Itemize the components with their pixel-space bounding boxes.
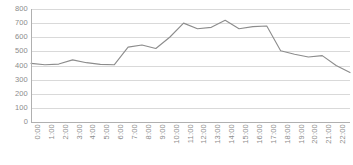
x-axis-tick-label: 21:00 xyxy=(325,124,333,144)
x-axis-tick-label: 3:00 xyxy=(76,124,84,139)
x-axis-tick-label: 15:00 xyxy=(242,124,250,144)
x-axis-line xyxy=(31,122,350,123)
y-axis-tick-label: 200 xyxy=(0,90,28,98)
x-axis-tick-label: 17:00 xyxy=(270,124,278,144)
y-axis-tick-label: 0 xyxy=(0,118,28,126)
x-axis-tick-label: 13:00 xyxy=(214,124,222,144)
x-axis-labels: 0:001:002:003:004:005:006:007:008:009:00… xyxy=(31,124,350,165)
x-axis-tick-label: 1:00 xyxy=(48,124,56,139)
x-axis-tick-label: 16:00 xyxy=(256,124,264,144)
y-axis-tick-label: 300 xyxy=(0,76,28,84)
series-line xyxy=(31,20,350,72)
y-axis-tick-label: 400 xyxy=(0,62,28,70)
x-axis-tick-label: 10:00 xyxy=(173,124,181,144)
y-axis-tick-label: 800 xyxy=(0,5,28,13)
x-axis-tick-label: 5:00 xyxy=(103,124,111,139)
x-axis-tick-label: 12:00 xyxy=(200,124,208,144)
x-axis-tick-label: 7:00 xyxy=(131,124,139,139)
x-axis-tick-label: 4:00 xyxy=(89,124,97,139)
line-chart: 8007006005004003002001000 0:001:002:003:… xyxy=(0,0,353,165)
y-axis-labels: 8007006005004003002001000 xyxy=(0,0,28,165)
x-axis-tick-label: 19:00 xyxy=(298,124,306,144)
y-axis-tick-label: 500 xyxy=(0,47,28,55)
x-axis-tick-label: 8:00 xyxy=(145,124,153,139)
y-axis-line xyxy=(31,9,32,123)
x-axis-tick-label: 0:00 xyxy=(34,124,42,139)
x-axis-tick-label: 14:00 xyxy=(228,124,236,144)
plot-area xyxy=(31,9,350,122)
x-axis-tick-label: 22:00 xyxy=(339,124,347,144)
x-axis-tick-label: 11:00 xyxy=(187,124,195,143)
x-axis-tick-label: 2:00 xyxy=(62,124,70,139)
y-axis-tick-label: 100 xyxy=(0,104,28,112)
x-axis-tick-label: 6:00 xyxy=(117,124,125,139)
series-line-layer xyxy=(31,9,350,122)
y-axis-tick-label: 600 xyxy=(0,33,28,41)
y-axis-tick-label: 700 xyxy=(0,19,28,27)
x-axis-tick-label: 18:00 xyxy=(284,124,292,144)
x-axis-tick-label: 20:00 xyxy=(311,124,319,144)
x-axis-tick-label: 9:00 xyxy=(159,124,167,139)
